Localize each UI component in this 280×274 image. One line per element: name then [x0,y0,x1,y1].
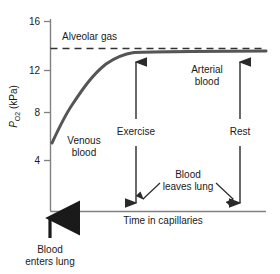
blood-leaves-lung-label-line2: leaves lung [148,181,228,192]
po2-capillary-chart: 16 12 8 4 PO2 (kPa) Alveolar gas Venous … [0,0,280,274]
blood-enters-lung-label-line2: enters lung [4,256,96,267]
chart-canvas [0,0,280,274]
alveolar-gas-label: Alveolar gas [62,31,117,42]
blood-enters-lung-label-line1: Blood [10,244,90,255]
y-axis-symbol: P [8,121,19,128]
y-tick-label-16: 16 [22,16,40,27]
y-axis-units: (kPa) [8,85,19,109]
rest-label: Rest [214,126,266,137]
y-axis-title: PO2 (kPa) [8,77,21,137]
x-axis-title: Time in capillaries [98,215,228,226]
arterial-blood-label-line2: blood [178,76,236,87]
exercise-label: Exercise [106,126,166,137]
blood-leaves-lung-label-line1: Blood [148,169,228,180]
venous-blood-label-line2: blood [58,147,110,158]
venous-blood-label-line1: Venous [58,135,110,146]
y-tick-label-4: 4 [22,155,40,166]
y-axis-ticks [44,22,51,161]
y-axis-subscript: O [14,116,21,121]
arterial-blood-label-line1: Arterial [178,64,236,75]
y-tick-label-8: 8 [22,107,40,118]
y-axis-subscript-2: 2 [14,112,21,116]
y-tick-label-12: 12 [22,65,40,76]
